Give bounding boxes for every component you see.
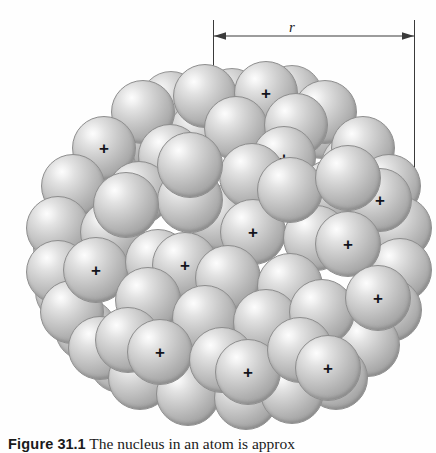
- proton-charge-mark: +: [373, 290, 383, 307]
- proton-sphere: +: [295, 335, 361, 401]
- neutron-sphere: [257, 157, 323, 223]
- radius-label: r: [284, 19, 300, 35]
- figure-caption: Figure 31.1 The nucleus in an atom is ap…: [8, 434, 432, 453]
- dimension-tick-left: [213, 20, 214, 66]
- neutron-sphere: [93, 172, 159, 238]
- caption-text: The nucleus in an atom is approx: [89, 435, 295, 452]
- double-arrow-icon: [213, 29, 415, 43]
- proton-sphere: +: [127, 319, 193, 385]
- proton-charge-mark: +: [248, 224, 258, 241]
- caption-label: Figure: [8, 436, 54, 452]
- caption-number: 31.1: [57, 436, 85, 452]
- proton-charge-mark: +: [261, 85, 271, 102]
- dimension-arrow: [213, 29, 415, 43]
- figure-container: +++++++++++++ r Figure 31.1 The nucleus …: [0, 0, 436, 453]
- proton-charge-mark: +: [99, 140, 109, 157]
- proton-charge-mark: +: [243, 364, 253, 381]
- neutron-sphere: [157, 132, 223, 198]
- neutron-sphere: [315, 145, 381, 211]
- proton-charge-mark: +: [343, 236, 353, 253]
- proton-charge-mark: +: [180, 257, 190, 274]
- proton-charge-mark: +: [155, 344, 165, 361]
- proton-charge-mark: +: [323, 360, 333, 377]
- proton-sphere: +: [345, 265, 411, 331]
- proton-charge-mark: +: [91, 262, 101, 279]
